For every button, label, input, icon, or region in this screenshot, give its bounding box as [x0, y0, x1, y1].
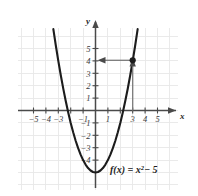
y-tick-label: −2: [81, 131, 92, 141]
y-axis-arrowhead: [92, 20, 98, 28]
x-tick-label: −5: [29, 114, 39, 124]
x-tick-label: 1: [106, 114, 110, 124]
axis-lines: [18, 20, 176, 188]
x-tick-labels: −5−4−3−11345: [29, 114, 160, 124]
x-axis-arrowhead: [168, 107, 176, 114]
x-tick-label: −3: [53, 114, 63, 124]
trace-annotations: [98, 57, 136, 110]
coordinate-plane: −5−4−3−11345 54321−1−2−3−4 x y f(x) = x2…: [0, 0, 198, 196]
formula-tail: − 5: [144, 164, 158, 175]
y-tick-label: 5: [86, 44, 90, 54]
y-axis-label: y: [85, 16, 91, 26]
x-axis-label: x: [179, 111, 185, 121]
x-tick-label: 5: [155, 114, 159, 124]
y-tick-label: 3: [85, 69, 90, 79]
graph-figure: −5−4−3−11345 54321−1−2−3−4 x y f(x) = x2…: [0, 0, 198, 196]
x-tick-label: −4: [41, 114, 52, 124]
formula-main: f(x) = x: [110, 164, 141, 176]
plot-point-3-4: [130, 57, 136, 63]
y-tick-label: 1: [86, 93, 90, 103]
y-tick-label: −1: [81, 118, 91, 128]
function-formula: f(x) = x2− 5: [110, 164, 158, 177]
x-tick-label: 4: [143, 114, 148, 124]
y-tick-labels: 54321−1−2−3−4: [81, 44, 92, 166]
y-tick-label: −3: [81, 143, 91, 153]
x-tick-label: 3: [130, 114, 135, 124]
horizontal-trace-arrowhead: [98, 57, 106, 63]
